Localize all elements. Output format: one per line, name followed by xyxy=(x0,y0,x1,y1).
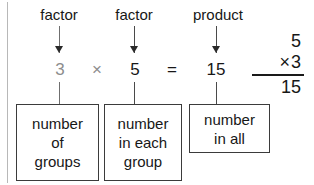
box-line: number xyxy=(32,114,83,133)
column-operator-and-multiplier: ×3 xyxy=(252,52,304,76)
box-number-of-groups: number of groups xyxy=(16,104,99,181)
column-multiplier: 3 xyxy=(291,52,301,72)
column-multiply-operator: × xyxy=(279,52,291,72)
diagram-canvas: factor factor product 3 × 5 = 15 number … xyxy=(0,0,314,185)
arrowhead-factor-1-icon xyxy=(55,46,63,53)
connector-stem-box-in-all xyxy=(216,82,217,104)
column-product: 15 xyxy=(252,76,304,98)
term-product: 15 xyxy=(200,60,232,79)
box-line: group xyxy=(124,152,162,171)
box-line: of xyxy=(51,133,64,152)
arrowhead-product-icon xyxy=(212,46,220,53)
scan-artifact-line xyxy=(7,2,8,183)
box-line: groups xyxy=(35,152,81,171)
operator-times: × xyxy=(84,60,110,79)
arrowhead-factor-2-icon xyxy=(130,46,138,53)
column-multiplication: 5 ×3 15 xyxy=(252,31,304,98)
box-number-in-all: number in all xyxy=(189,104,270,153)
term-factor-1: 3 xyxy=(47,60,73,79)
connector-stem-box-each-group xyxy=(134,82,135,104)
term-factor-2: 5 xyxy=(122,60,148,79)
label-product: product xyxy=(178,6,258,23)
box-line: number xyxy=(118,114,169,133)
connector-stem-box-groups xyxy=(59,82,60,104)
operator-equals: = xyxy=(159,60,185,79)
label-factor-2: factor xyxy=(101,6,167,23)
box-line: in all xyxy=(214,129,245,148)
label-factor-1: factor xyxy=(26,6,92,23)
box-line: in each xyxy=(119,133,167,152)
box-number-in-each-group: number in each group xyxy=(104,104,182,181)
box-line: number xyxy=(204,110,255,129)
column-multiplicand: 5 xyxy=(252,31,304,52)
